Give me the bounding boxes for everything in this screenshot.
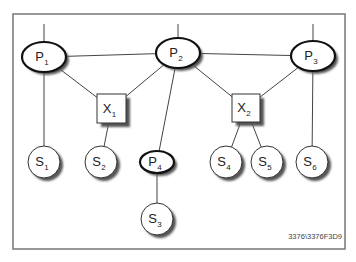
node-s4[interactable]: S4 xyxy=(210,146,245,181)
node-s5[interactable]: S5 xyxy=(251,146,286,181)
node-label-subscript: 2 xyxy=(178,54,183,63)
node-layer: P1P2P3P4X1X2S1S2S3S4S5S6 xyxy=(22,38,338,238)
node-s3[interactable]: S3 xyxy=(141,203,176,238)
figure-code: 3376\3376F3D9 xyxy=(288,232,342,241)
node-label-subscript: 2 xyxy=(101,163,106,172)
processor-ellipse xyxy=(22,42,66,72)
station-circle xyxy=(141,203,173,235)
node-label-subscript: 1 xyxy=(44,58,49,67)
node-s2[interactable]: S2 xyxy=(85,146,120,181)
processor-ellipse xyxy=(291,41,335,71)
node-s6[interactable]: S6 xyxy=(296,146,331,181)
node-p3[interactable]: P3 xyxy=(291,41,338,74)
network-diagram: P1P2P3P4X1X2S1S2S3S4S5S6 3376\3376F3D9 xyxy=(0,0,356,262)
node-p1[interactable]: P1 xyxy=(22,42,69,75)
node-label-subscript: 3 xyxy=(313,57,318,66)
node-x2[interactable]: X2 xyxy=(232,94,264,126)
station-circle xyxy=(28,146,60,178)
processor-ellipse xyxy=(156,38,200,68)
station-circle xyxy=(251,146,283,178)
node-label-subscript: 6 xyxy=(312,163,317,172)
node-label-subscript: 4 xyxy=(157,163,162,172)
switch-box xyxy=(97,94,126,123)
node-label-subscript: 4 xyxy=(226,163,231,172)
node-label-subscript: 1 xyxy=(112,110,117,119)
node-label-subscript: 1 xyxy=(44,163,49,172)
station-circle xyxy=(210,146,242,178)
node-s1[interactable]: S1 xyxy=(28,146,63,181)
node-x1[interactable]: X1 xyxy=(97,94,130,127)
node-label-subscript: 3 xyxy=(157,220,162,229)
station-circle xyxy=(296,146,328,178)
node-label-subscript: 2 xyxy=(246,109,251,118)
node-label-subscript: 5 xyxy=(267,163,272,172)
node-p4[interactable]: P4 xyxy=(140,151,177,176)
connection-lines xyxy=(44,53,313,219)
station-circle xyxy=(85,146,117,178)
